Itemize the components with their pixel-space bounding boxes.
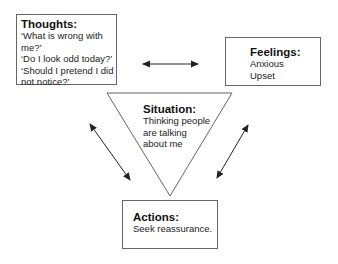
- thoughts-title: Thoughts:: [21, 18, 116, 30]
- situation-line: Thinking people: [143, 115, 210, 127]
- situation-line: about me: [143, 138, 210, 150]
- thoughts-line: not notice?’: [21, 76, 116, 88]
- situation-line: are talking: [143, 127, 210, 139]
- feelings-actions-arrow: [217, 125, 248, 178]
- feelings-line: Anxious: [250, 58, 320, 70]
- feelings-box: Feelings: Anxious Upset: [225, 37, 321, 86]
- thoughts-line: ‘What is wrong with: [21, 30, 116, 42]
- feelings-line: Upset: [250, 70, 320, 82]
- thoughts-line: ‘Should I pretend I did: [21, 65, 116, 77]
- situation-text: Situation: Thinking people are talking a…: [143, 103, 210, 150]
- thoughts-line: ‘Do I look odd today?’: [21, 53, 116, 65]
- actions-line: Seek reassurance.: [133, 223, 217, 235]
- thoughts-actions-arrow: [90, 124, 130, 180]
- feelings-title: Feelings:: [250, 46, 320, 58]
- thoughts-line: me?’: [21, 42, 116, 54]
- actions-title: Actions:: [133, 211, 217, 223]
- thoughts-box: Thoughts: ‘What is wrong with me?’ ‘Do I…: [16, 14, 117, 85]
- actions-box: Actions: Seek reassurance.: [122, 200, 218, 249]
- situation-title: Situation:: [143, 103, 210, 115]
